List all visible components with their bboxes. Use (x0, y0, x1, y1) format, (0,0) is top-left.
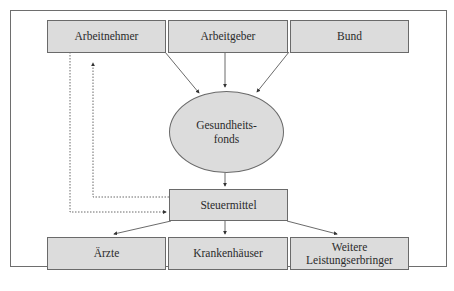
edge-steuermittel-weitere (287, 221, 337, 234)
node-gesundheitsfonds: Gesundheits- fonds (169, 91, 284, 173)
node-label: Arbeitnehmer (75, 30, 139, 43)
node-aerzte: Ärzte (47, 237, 166, 270)
node-label: Weitere Leistungserbringer (306, 241, 393, 267)
node-label: Ärzte (94, 247, 120, 260)
node-bund: Bund (290, 20, 409, 53)
node-label: Krankenhäuser (193, 247, 263, 260)
node-weitere-leistungserbringer: Weitere Leistungserbringer (290, 237, 409, 270)
edge-steuermittel-aerzte (114, 221, 171, 234)
edge-arbeitnehmer-fonds (165, 52, 199, 93)
node-arbeitgeber: Arbeitgeber (168, 20, 288, 53)
node-label: Arbeitgeber (201, 30, 256, 43)
edge-bund-fonds (257, 52, 289, 92)
node-label: Bund (337, 30, 362, 43)
node-arbeitnehmer: Arbeitnehmer (47, 20, 166, 53)
node-krankenhaeuser: Krankenhäuser (168, 237, 288, 270)
edge-dotted-steuermittel-arbeitnehmer (93, 63, 169, 197)
node-label: Steuermittel (200, 199, 256, 212)
node-label: Gesundheits- fonds (196, 118, 257, 146)
edge-dotted-arbeitnehmer-steuermittel (70, 52, 166, 212)
node-steuermittel: Steuermittel (169, 189, 288, 221)
